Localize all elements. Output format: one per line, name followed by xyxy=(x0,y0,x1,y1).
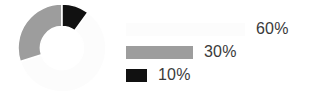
donut-chart xyxy=(17,3,107,93)
legend-swatch-60 xyxy=(126,23,245,36)
legend-item-60: 60% xyxy=(126,18,289,40)
legend-label-60: 60% xyxy=(256,21,289,37)
legend-item-30: 30% xyxy=(126,41,237,63)
legend-label-10: 10% xyxy=(158,67,191,83)
legend-swatch-30 xyxy=(126,46,193,59)
donut-chart-figure: 60% 30% 10% xyxy=(0,0,310,96)
donut-chart-svg xyxy=(17,3,107,93)
legend-swatch-10 xyxy=(126,69,147,82)
donut-slice-30 xyxy=(18,4,62,62)
chart-legend: 60% 30% 10% xyxy=(126,18,310,88)
legend-label-30: 30% xyxy=(204,44,237,60)
legend-item-10: 10% xyxy=(126,64,191,86)
donut-slice-group xyxy=(18,4,106,92)
